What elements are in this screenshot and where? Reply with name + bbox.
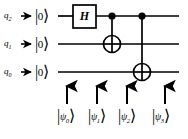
state-label-psi0: |ψ0⟩ <box>57 108 74 126</box>
qubit-label-q0: q0 <box>4 67 12 78</box>
cnot-gate-q2-q0[interactable] <box>134 12 151 80</box>
hadamard-gate-label: H <box>73 10 96 22</box>
init-ket-q0: |0⟩ <box>35 64 48 80</box>
qubit-label-q2: q2 <box>4 11 12 22</box>
cnot2-control-dot <box>138 12 145 19</box>
qubit-label-q1: q1 <box>4 39 12 50</box>
init-ket-q2: |0⟩ <box>35 8 48 24</box>
qubit-input-arrows <box>21 16 31 72</box>
state-label-psi3: |ψ3⟩ <box>152 108 169 126</box>
state-slice-arrows <box>67 86 165 104</box>
cnot1-control-dot <box>108 12 115 19</box>
state-label-psi1: |ψ1⟩ <box>88 108 105 126</box>
init-ket-q1: |0⟩ <box>35 36 48 52</box>
cnot-gate-q2-q1[interactable] <box>104 12 121 52</box>
quantum-circuit-diagram: q2 q1 q0 |0⟩ |0⟩ |0⟩ H |ψ0⟩ |ψ1⟩ |ψ2⟩ |ψ… <box>0 0 188 139</box>
state-label-psi2: |ψ2⟩ <box>118 108 135 126</box>
